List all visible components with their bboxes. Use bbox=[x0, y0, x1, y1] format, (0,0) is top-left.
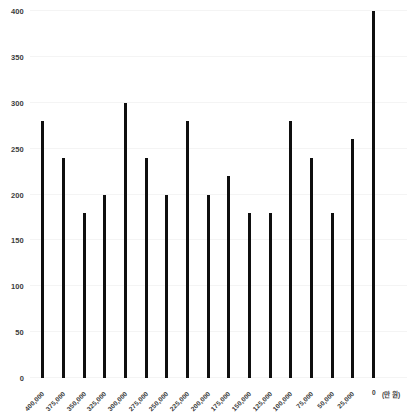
bar bbox=[289, 121, 292, 378]
plot-area bbox=[30, 11, 407, 378]
y-tick-label: 400 bbox=[11, 7, 24, 16]
gridline bbox=[30, 56, 407, 57]
x-tick-label: 375,000 bbox=[44, 390, 66, 412]
bar bbox=[145, 158, 148, 378]
bar bbox=[331, 213, 334, 378]
x-tick-label: 75,000 bbox=[295, 390, 315, 410]
y-tick-label: 0 bbox=[20, 374, 24, 383]
x-tick-label: 175,000 bbox=[209, 390, 231, 412]
gridline bbox=[30, 102, 407, 103]
gridline bbox=[30, 10, 407, 11]
x-tick-label: 125,000 bbox=[251, 390, 273, 412]
x-tick-label: 250,000 bbox=[147, 390, 169, 412]
x-axis: 400,000375,000350,000325,000300,000275,0… bbox=[30, 379, 407, 418]
x-tick-label: 50,000 bbox=[315, 390, 335, 410]
bar bbox=[103, 195, 106, 379]
y-tick-label: 50 bbox=[15, 328, 24, 337]
bar bbox=[62, 158, 65, 378]
bar bbox=[351, 139, 354, 378]
y-tick-label: 150 bbox=[11, 236, 24, 245]
bar bbox=[227, 176, 230, 378]
bar bbox=[83, 213, 86, 378]
y-tick-label: 100 bbox=[11, 282, 24, 291]
x-tick-label: 275,000 bbox=[127, 390, 149, 412]
x-tick-label: 150,000 bbox=[230, 390, 252, 412]
bar-chart: 050100150200250300350400 400,000375,0003… bbox=[0, 0, 407, 418]
x-tick-label: 300,000 bbox=[106, 390, 128, 412]
x-tick-label: 400,000 bbox=[24, 390, 46, 412]
y-axis: 050100150200250300350400 bbox=[0, 0, 28, 390]
y-tick-label: 350 bbox=[11, 52, 24, 61]
x-tick-label: 0 bbox=[372, 389, 376, 396]
x-tick-label: 325,000 bbox=[85, 390, 107, 412]
x-tick-label: 350,000 bbox=[65, 390, 87, 412]
x-tick-label: 225,000 bbox=[168, 390, 190, 412]
bar bbox=[165, 195, 168, 379]
bar bbox=[248, 213, 251, 378]
y-tick-label: 200 bbox=[11, 190, 24, 199]
x-axis-unit-label: (만 원) bbox=[382, 389, 400, 399]
y-tick-label: 250 bbox=[11, 144, 24, 153]
bar bbox=[372, 11, 375, 378]
bar bbox=[41, 121, 44, 378]
x-tick-label: 200,000 bbox=[189, 390, 211, 412]
y-tick-label: 300 bbox=[11, 98, 24, 107]
bar bbox=[186, 121, 189, 378]
bar bbox=[310, 158, 313, 378]
bar bbox=[124, 103, 127, 378]
x-tick-label: 25,000 bbox=[336, 390, 356, 410]
x-tick-label: 100,000 bbox=[271, 390, 293, 412]
bar bbox=[207, 195, 210, 379]
bar bbox=[269, 213, 272, 378]
